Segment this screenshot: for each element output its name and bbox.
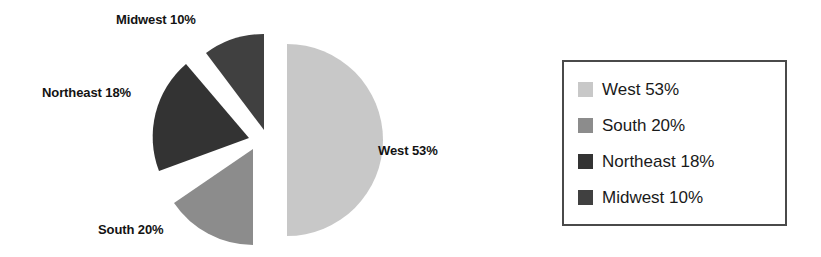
legend-item-midwest: Midwest 10% — [578, 179, 785, 215]
pie-svg — [0, 0, 560, 257]
data-label-south: South 20% — [98, 222, 164, 237]
legend-item-west: West 53% — [578, 71, 785, 107]
legend-item-south: South 20% — [578, 107, 785, 143]
legend-label-south: South 20% — [602, 117, 685, 134]
data-label-west: West 53% — [378, 143, 438, 158]
data-label-midwest: Midwest 10% — [116, 12, 196, 27]
pie-plot-area: Midwest 10% Northeast 18% South 20% West… — [0, 0, 560, 257]
legend-swatch-icon-south — [578, 118, 593, 133]
pie-slice-west — [287, 44, 383, 236]
legend-label-northeast: Northeast 18% — [602, 153, 714, 170]
legend-label-west: West 53% — [602, 81, 679, 98]
data-label-northeast: Northeast 18% — [42, 85, 131, 100]
legend-label-midwest: Midwest 10% — [602, 189, 703, 206]
chart-legend: West 53% South 20% Northeast 18% Midwest… — [562, 60, 787, 226]
legend-swatch-icon-midwest — [578, 190, 593, 205]
pie-slice-south — [174, 149, 253, 245]
legend-item-northeast: Northeast 18% — [578, 143, 785, 179]
legend-swatch-icon-northeast — [578, 154, 593, 169]
legend-swatch-icon-west — [578, 82, 593, 97]
pie-chart-figure: Midwest 10% Northeast 18% South 20% West… — [0, 0, 821, 257]
